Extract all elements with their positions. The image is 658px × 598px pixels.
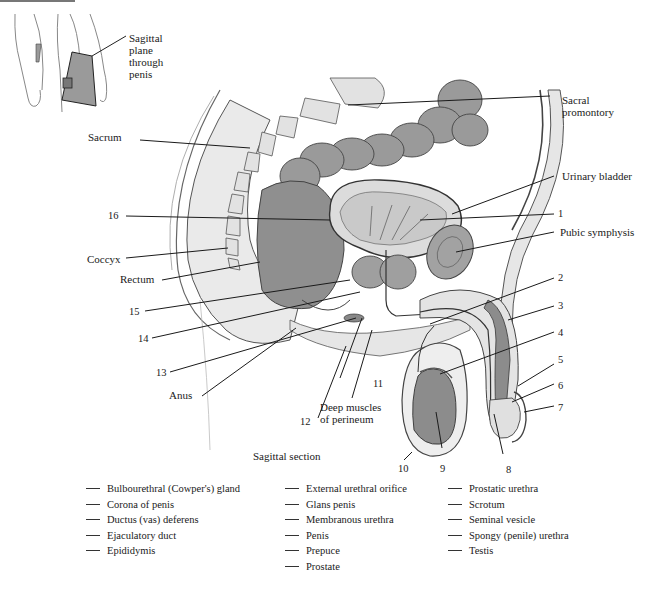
term: Corona of penis — [107, 497, 174, 513]
term: Prepuce — [306, 543, 340, 559]
word-bank-item[interactable]: Prepuce — [285, 543, 407, 559]
label-pubic-symphysis: Pubic symphysis — [560, 226, 634, 238]
word-bank-column-3: Prostatic urethra Scrotum Seminal vesicl… — [448, 481, 569, 559]
number-label-9: 9 — [440, 463, 445, 474]
number-label-2: 2 — [558, 272, 563, 283]
answer-blank[interactable] — [285, 519, 299, 520]
answer-blank[interactable] — [448, 519, 462, 520]
term: Scrotum — [469, 497, 505, 513]
label-line: of perineum — [320, 413, 381, 425]
caption-sagittal-section: Sagittal section — [253, 450, 321, 462]
term: External urethral orifice — [306, 481, 407, 497]
answer-blank[interactable] — [448, 504, 462, 505]
term: Penis — [306, 528, 329, 544]
label-rectum: Rectum — [120, 273, 154, 285]
inset-label-line: penis — [129, 68, 163, 80]
label-sacral-promontory: Sacral promontory — [562, 94, 614, 118]
answer-blank[interactable] — [86, 519, 100, 520]
word-bank-item[interactable]: External urethral orifice — [285, 481, 407, 497]
answer-blank[interactable] — [86, 535, 100, 536]
word-bank-item[interactable]: Epididymis — [86, 543, 240, 559]
answer-blank[interactable] — [86, 488, 100, 489]
word-bank-item[interactable]: Penis — [285, 528, 407, 544]
term: Bulbourethral (Cowper's) gland — [107, 481, 240, 497]
answer-blank[interactable] — [448, 550, 462, 551]
answer-blank[interactable] — [448, 535, 462, 536]
answer-blank[interactable] — [285, 535, 299, 536]
answer-blank[interactable] — [448, 488, 462, 489]
label-line: Deep muscles — [320, 401, 381, 413]
term: Epididymis — [107, 543, 155, 559]
number-label-14: 14 — [138, 333, 149, 344]
number-label-3: 3 — [558, 300, 563, 311]
term: Ductus (vas) deferens — [107, 512, 199, 528]
inset-label-line: through — [129, 56, 163, 68]
label-line: promontory — [562, 106, 614, 118]
answer-blank[interactable] — [86, 504, 100, 505]
number-label-13: 13 — [156, 367, 167, 378]
term: Prostatic urethra — [469, 481, 538, 497]
number-label-11: 11 — [373, 378, 383, 389]
word-bank-item[interactable]: Ejaculatory duct — [86, 528, 240, 544]
testis-shape — [413, 369, 456, 444]
word-bank-item[interactable]: Membranous urethra — [285, 512, 407, 528]
number-label-4: 4 — [558, 327, 563, 338]
inset-label: Sagittal plane through penis — [129, 32, 163, 80]
number-label-15: 15 — [129, 306, 140, 317]
word-bank-item[interactable]: Spongy (penile) urethra — [448, 528, 569, 544]
word-bank-item[interactable]: Testis — [448, 543, 569, 559]
number-label-1: 1 — [558, 208, 563, 219]
term: Seminal vesicle — [469, 512, 535, 528]
term: Membranous urethra — [306, 512, 394, 528]
number-label-7: 7 — [558, 402, 563, 413]
word-bank-item[interactable]: Seminal vesicle — [448, 512, 569, 528]
number-label-5: 5 — [558, 354, 563, 365]
word-bank-item[interactable]: Scrotum — [448, 497, 569, 513]
word-bank-item[interactable]: Ductus (vas) deferens — [86, 512, 240, 528]
label-line: Sacral — [562, 94, 614, 106]
term: Glans penis — [306, 497, 355, 513]
answer-blank[interactable] — [285, 550, 299, 551]
number-label-8: 8 — [506, 464, 511, 475]
number-label-10: 10 — [398, 463, 409, 474]
word-bank-item[interactable]: Corona of penis — [86, 497, 240, 513]
word-bank-column-1: Bulbourethral (Cowper's) gland Corona of… — [86, 481, 240, 559]
label-deep-muscles-of-perineum: Deep muscles of perineum — [320, 401, 381, 425]
word-bank-column-2: External urethral orifice Glans penis Me… — [285, 481, 407, 574]
term: Testis — [469, 543, 493, 559]
word-bank-item[interactable]: Bulbourethral (Cowper's) gland — [86, 481, 240, 497]
inset-label-line: Sagittal — [129, 32, 163, 44]
label-sacrum: Sacrum — [88, 131, 122, 143]
number-label-12: 12 — [300, 416, 311, 427]
term: Prostate — [306, 559, 340, 575]
answer-blank[interactable] — [285, 488, 299, 489]
term: Spongy (penile) urethra — [469, 528, 569, 544]
answer-blank[interactable] — [86, 550, 100, 551]
word-bank-item[interactable]: Prostate — [285, 559, 407, 575]
answer-blank[interactable] — [285, 566, 299, 567]
number-label-16: 16 — [108, 210, 119, 221]
number-label-6: 6 — [558, 380, 563, 391]
label-anus: Anus — [169, 389, 192, 401]
term: Ejaculatory duct — [107, 528, 176, 544]
label-coccyx: Coccyx — [87, 253, 121, 265]
answer-blank[interactable] — [285, 504, 299, 505]
label-urinary-bladder: Urinary bladder — [562, 170, 632, 182]
word-bank-item[interactable]: Glans penis — [285, 497, 407, 513]
inset-label-line: plane — [129, 44, 163, 56]
word-bank-item[interactable]: Prostatic urethra — [448, 481, 569, 497]
